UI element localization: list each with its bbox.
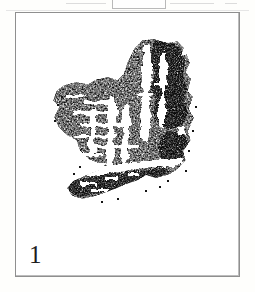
fragment-hairline bbox=[6, 10, 249, 11]
figure-number-caption: 1 bbox=[29, 242, 42, 267]
fragment-rule-right bbox=[170, 3, 214, 4]
fragment-box-outline bbox=[112, 0, 166, 9]
fragment-rule-left bbox=[66, 3, 106, 4]
ink-rubbing-impression bbox=[50, 39, 202, 215]
fragment-rule-far-right bbox=[225, 3, 237, 4]
page-canvas: 1 bbox=[0, 0, 255, 292]
figure-plate-frame: 1 bbox=[15, 12, 240, 277]
cropped-figure-fragment bbox=[0, 0, 255, 12]
